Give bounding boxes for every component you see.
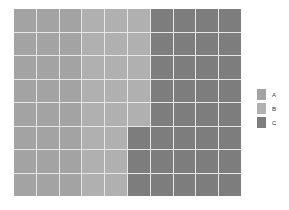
waffle-cell-a [60, 150, 82, 173]
legend-label-a: A [272, 92, 276, 98]
waffle-cell-a [60, 174, 82, 197]
waffle-cell-a [37, 103, 59, 126]
waffle-cell-c [219, 150, 241, 173]
waffle-cell-c [219, 103, 241, 126]
waffle-cell-b [82, 33, 104, 56]
waffle-chart [14, 9, 241, 196]
waffle-cell-a [60, 127, 82, 150]
waffle-cell-c [151, 80, 173, 103]
waffle-cell-b [105, 103, 127, 126]
waffle-cell-b [105, 174, 127, 197]
waffle-cell-a [37, 33, 59, 56]
waffle-cell-b [128, 9, 150, 32]
waffle-cell-a [60, 56, 82, 79]
waffle-cell-a [14, 103, 36, 126]
waffle-cell-c [219, 80, 241, 103]
waffle-cell-c [151, 127, 173, 150]
waffle-cell-c [128, 174, 150, 197]
waffle-cell-b [105, 9, 127, 32]
legend-swatch-a [257, 89, 266, 100]
legend-swatch-c [257, 117, 266, 128]
waffle-cell-c [151, 103, 173, 126]
waffle-cell-c [174, 56, 196, 79]
waffle-cell-c [219, 33, 241, 56]
waffle-cell-b [82, 150, 104, 173]
waffle-cell-c [174, 80, 196, 103]
waffle-cell-a [37, 80, 59, 103]
waffle-cell-b [82, 127, 104, 150]
waffle-cell-a [37, 127, 59, 150]
waffle-cell-c [174, 9, 196, 32]
waffle-cell-c [174, 127, 196, 150]
waffle-cell-c [128, 150, 150, 173]
waffle-cell-c [219, 9, 241, 32]
waffle-cell-a [37, 9, 59, 32]
waffle-cell-a [14, 80, 36, 103]
waffle-cell-a [14, 174, 36, 197]
waffle-cell-b [105, 127, 127, 150]
waffle-cell-a [37, 150, 59, 173]
legend-item-a: A [257, 88, 276, 101]
legend-label-c: C [272, 120, 276, 126]
waffle-cell-c [196, 174, 218, 197]
waffle-cell-b [105, 80, 127, 103]
waffle-cell-b [128, 80, 150, 103]
waffle-cell-a [14, 150, 36, 173]
waffle-cell-c [196, 127, 218, 150]
waffle-cell-a [14, 127, 36, 150]
waffle-cell-c [196, 56, 218, 79]
waffle-cell-c [219, 56, 241, 79]
waffle-cell-c [151, 150, 173, 173]
waffle-cell-c [151, 174, 173, 197]
waffle-cell-b [82, 174, 104, 197]
waffle-cell-b [105, 150, 127, 173]
legend-swatch-b [257, 103, 266, 114]
waffle-cell-c [196, 103, 218, 126]
waffle-cell-b [82, 9, 104, 32]
waffle-cell-c [196, 150, 218, 173]
legend: A B C [257, 88, 276, 130]
waffle-cell-c [151, 9, 173, 32]
legend-label-b: B [272, 106, 276, 112]
waffle-cell-c [219, 127, 241, 150]
waffle-cell-b [82, 56, 104, 79]
waffle-cell-c [174, 174, 196, 197]
waffle-cell-a [14, 33, 36, 56]
waffle-cell-c [128, 127, 150, 150]
waffle-cell-a [60, 9, 82, 32]
waffle-cell-c [196, 33, 218, 56]
waffle-cell-a [14, 9, 36, 32]
waffle-cell-b [105, 56, 127, 79]
waffle-cell-b [82, 80, 104, 103]
waffle-cell-c [196, 80, 218, 103]
waffle-cell-c [196, 9, 218, 32]
waffle-cell-b [128, 33, 150, 56]
waffle-cell-c [174, 33, 196, 56]
waffle-cell-a [60, 80, 82, 103]
waffle-cell-c [219, 174, 241, 197]
waffle-cell-b [82, 103, 104, 126]
legend-item-c: C [257, 116, 276, 129]
waffle-cell-c [151, 33, 173, 56]
waffle-cell-c [151, 56, 173, 79]
waffle-cell-c [174, 103, 196, 126]
waffle-cell-a [37, 56, 59, 79]
waffle-cell-b [105, 33, 127, 56]
waffle-cell-a [14, 56, 36, 79]
waffle-cell-b [128, 56, 150, 79]
waffle-cell-b [128, 103, 150, 126]
waffle-cell-a [60, 103, 82, 126]
waffle-cell-a [37, 174, 59, 197]
legend-item-b: B [257, 102, 276, 115]
waffle-cell-c [174, 150, 196, 173]
waffle-cell-a [60, 33, 82, 56]
